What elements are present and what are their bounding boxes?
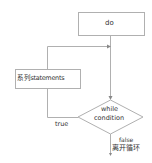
arrowhead-icon xyxy=(109,96,113,100)
false-label: false xyxy=(119,137,133,143)
statements-label: 系列statements xyxy=(17,75,64,82)
edge-condition-to-statements xyxy=(48,89,79,118)
edge-statements-to-do xyxy=(48,47,111,70)
arrowhead-icon xyxy=(109,153,112,156)
condition-label-line2: condition xyxy=(94,115,124,122)
exit-loop-label: 离开循环 xyxy=(112,145,140,152)
true-label: true xyxy=(55,121,68,128)
do-label: do xyxy=(105,20,114,27)
condition-label-line1: while xyxy=(101,106,118,113)
